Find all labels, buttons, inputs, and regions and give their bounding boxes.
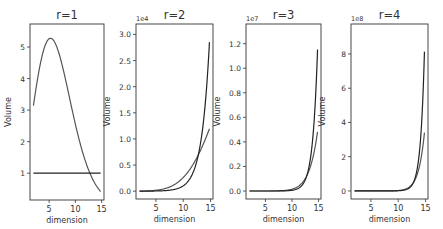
y-tick-label: 5 <box>20 43 25 52</box>
y-tick-label: 3 <box>20 106 25 115</box>
x-tick-label: 10 <box>393 204 403 213</box>
y-tick-label: 6 <box>341 84 346 93</box>
figure: 5101512345r=1dimensionVolume510150.00.51… <box>0 0 443 229</box>
x-tick-label: 5 <box>47 205 52 214</box>
y-tick-label: 1.0 <box>119 135 131 144</box>
subplot-3: 510150.00.20.40.60.81.01.21e7r=3dimensio… <box>213 8 324 224</box>
y-axis-label: Volume <box>103 97 112 127</box>
nball-volume-line <box>33 38 100 191</box>
hypercube-volume-line <box>140 42 210 191</box>
y-tick-label: 0.5 <box>119 161 131 170</box>
y-tick-label: 1.5 <box>119 109 131 118</box>
y-tick-label: 1.2 <box>229 40 241 49</box>
y-axis-label: Volume <box>4 97 13 127</box>
x-tick-label: 15 <box>205 204 215 213</box>
axis-offset-label: 1e4 <box>136 15 148 23</box>
y-axis-label: Volume <box>318 97 327 127</box>
x-tick-label: 5 <box>153 204 158 213</box>
y-axis-label: Volume <box>213 97 222 127</box>
y-tick-label: 1 <box>20 169 25 178</box>
x-tick-label: 15 <box>420 204 430 213</box>
y-tick-label: 0.0 <box>229 187 241 196</box>
axis-offset-label: 1e7 <box>246 15 258 23</box>
subplot-title: r=4 <box>379 8 401 22</box>
y-tick-label: 2.0 <box>119 83 131 92</box>
y-tick-label: 2 <box>20 138 25 147</box>
hypercube-volume-line <box>249 50 317 191</box>
x-tick-label: 10 <box>178 204 188 213</box>
y-tick-label: 2.5 <box>119 57 131 66</box>
subplot-title: r=3 <box>273 8 295 22</box>
y-tick-label: 0.8 <box>229 89 241 98</box>
x-tick-label: 10 <box>287 204 297 213</box>
nball-volume-line <box>140 129 210 191</box>
y-tick-label: 2 <box>341 153 346 162</box>
axis-offset-label: 1e8 <box>351 15 363 23</box>
x-tick-label: 10 <box>70 205 80 214</box>
subplot-title: r=1 <box>56 8 78 22</box>
subplot-title: r=2 <box>164 8 186 22</box>
y-tick-label: 4 <box>20 75 25 84</box>
x-axis-label: dimension <box>154 215 195 224</box>
subplot-1: 5101512345r=1dimensionVolume <box>4 8 107 225</box>
x-tick-label: 5 <box>368 204 373 213</box>
x-axis-label: dimension <box>369 215 410 224</box>
axes-frame <box>246 24 321 199</box>
subplot-4: 51015024681e8r=4dimensionVolume <box>318 8 431 224</box>
x-tick-label: 15 <box>97 205 107 214</box>
y-tick-label: 1.0 <box>229 64 241 73</box>
axes-frame <box>136 24 213 199</box>
x-tick-label: 5 <box>263 204 268 213</box>
y-tick-label: 0.0 <box>119 187 131 196</box>
y-tick-label: 0.2 <box>229 162 241 171</box>
y-tick-label: 0 <box>341 187 346 196</box>
nball-volume-line <box>249 132 317 191</box>
y-tick-label: 8 <box>341 50 346 59</box>
y-tick-label: 3.0 <box>119 30 131 39</box>
y-tick-label: 4 <box>341 118 346 127</box>
hypercube-volume-line <box>355 52 425 191</box>
y-tick-label: 0.4 <box>229 138 241 147</box>
x-tick-label: 15 <box>314 204 324 213</box>
x-axis-label: dimension <box>263 215 304 224</box>
y-tick-label: 0.6 <box>229 113 241 122</box>
subplot-2: 510150.00.51.01.52.02.53.01e4r=2dimensio… <box>103 8 216 224</box>
x-axis-label: dimension <box>46 216 87 225</box>
